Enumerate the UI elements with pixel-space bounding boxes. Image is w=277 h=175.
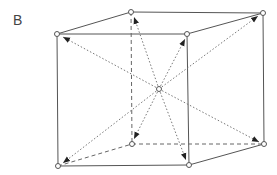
vertex-front-bottom-right <box>187 163 192 168</box>
vertex-front-top-right <box>185 32 190 37</box>
vertex-back-bottom-right <box>262 142 267 147</box>
vertex-front-top-left <box>55 32 60 37</box>
vertex-front-bottom-left <box>56 164 61 169</box>
vertex-center <box>157 87 162 92</box>
vertex-back-bottom-left <box>130 142 135 147</box>
vertex-back-top-right <box>261 11 266 16</box>
cube-diagram <box>0 0 277 175</box>
vertex-back-top-left <box>129 10 134 15</box>
